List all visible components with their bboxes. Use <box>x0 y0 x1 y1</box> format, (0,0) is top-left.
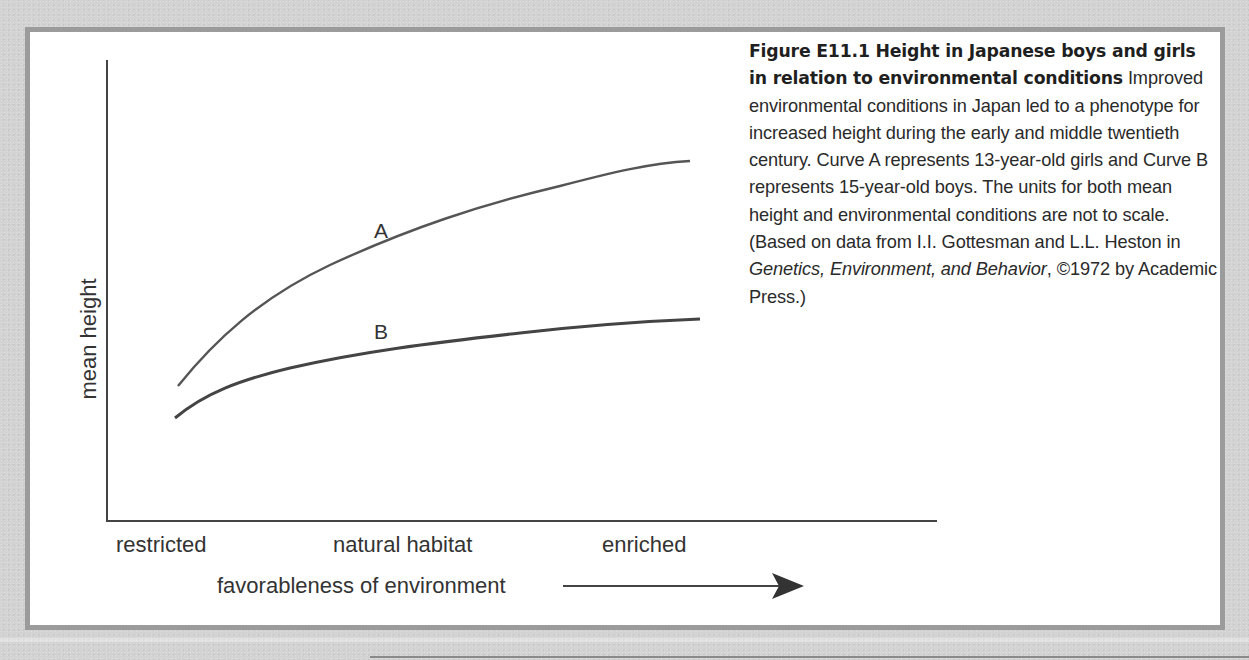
y-axis-label: mean height <box>76 278 101 399</box>
curve-a-label: A <box>374 219 388 242</box>
caption-source-title: Genetics, Environment, and Behavior <box>749 259 1047 279</box>
curve-a <box>178 161 690 386</box>
curve-b <box>175 319 700 418</box>
figure-caption: Figure E11.1 Height in Japanese boys and… <box>749 38 1219 311</box>
curve-b-label: B <box>374 320 388 343</box>
caption-text-1: Improved environmental conditions in Jap… <box>749 68 1208 252</box>
x-tick-enriched: enriched <box>602 532 686 557</box>
x-tick-natural-habitat: natural habitat <box>333 532 472 557</box>
x-axis-label: favorableness of environment <box>217 573 506 598</box>
x-tick-restricted: restricted <box>116 532 206 557</box>
